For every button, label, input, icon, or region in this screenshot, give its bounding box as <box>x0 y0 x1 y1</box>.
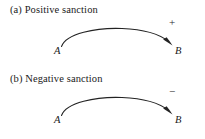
minus-sign: − <box>169 86 175 97</box>
sanction-diagram-figure: (a) Positive sanction + A B (b) Negative… <box>0 0 205 139</box>
panel-negative-sanction: (b) Negative sanction − A B <box>0 69 205 138</box>
panel-b-source-label: A <box>54 114 60 126</box>
panel-positive-sanction: (a) Positive sanction + A B <box>0 0 205 69</box>
panel-a-source-label: A <box>54 45 60 57</box>
panel-a-arc-path <box>62 28 169 46</box>
panel-b-target-label: B <box>175 114 181 126</box>
panel-b-arrow <box>0 69 205 138</box>
panel-a-arrow <box>0 0 205 69</box>
panel-b-arc-path <box>62 97 169 115</box>
panel-a-target-label: B <box>175 45 181 57</box>
plus-sign: + <box>169 17 175 28</box>
